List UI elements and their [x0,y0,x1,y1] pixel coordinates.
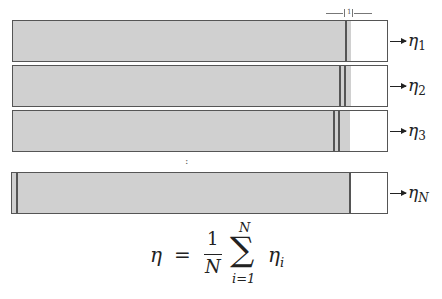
row-2-marker-b [344,66,346,106]
dim-arrow-left [326,13,343,14]
row-n-fill-edge [349,173,351,213]
row-2-marker-a [339,66,341,106]
row-3-arrow [390,131,406,132]
row-3-fill [13,111,350,151]
row-1-arrow [390,41,406,42]
formula-denominator: N [205,256,221,277]
fraction-bar [204,254,222,255]
row-2-arrow [390,86,406,87]
dim-arrow-right [354,13,372,14]
sum-symbol: ∑ [230,232,254,266]
dimension-label: 1 [347,8,351,16]
row-1-fill [13,21,351,61]
row-3-eta-label: η3 [408,120,426,143]
formula-equals: = [174,243,191,267]
row-2-fill [13,66,351,106]
row-2-bar [12,65,388,107]
row-3-marker-a [333,111,335,151]
dim-tick-right [352,9,353,17]
row-n-marker [16,173,18,213]
row-1-bar [12,20,388,62]
row-n-arrow [390,193,406,194]
vertical-ellipsis: : [185,155,188,166]
row-1-eta-label: η1 [408,30,426,53]
row-n-fill [12,173,350,213]
row-1-marker [345,21,347,61]
row-n-bar [11,172,388,214]
dimension-marker: 1 [326,8,376,18]
row-2-eta-label: η2 [408,75,426,98]
formula-lhs: η [150,243,162,267]
row-3-bar [12,110,388,152]
dim-tick-left [344,9,345,17]
formula-numerator: 1 [207,228,218,249]
formula-term: ηi [268,243,284,270]
row-3-marker-b [338,111,340,151]
formula-sum-lower: i=1 [232,271,255,286]
row-n-eta-label: ηN [408,182,429,205]
